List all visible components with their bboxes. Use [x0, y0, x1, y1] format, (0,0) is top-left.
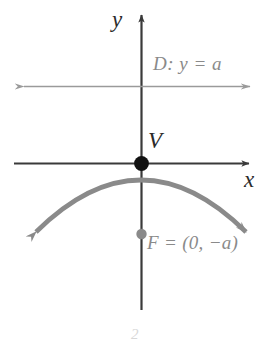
focus-dot — [136, 229, 146, 239]
y-axis-label: y — [112, 8, 122, 31]
cropped-caption-artifact: 2 — [131, 326, 139, 343]
parabola-diagram: y x V D: y = a F = (0, −a) 2 — [0, 0, 267, 343]
focus-label: F = (0, −a) — [147, 233, 238, 252]
vertex-label: V — [148, 129, 162, 152]
directrix-label: D: y = a — [153, 54, 222, 73]
x-axis-label: x — [244, 168, 254, 191]
diagram-canvas — [0, 0, 267, 343]
vertex-dot — [134, 156, 149, 171]
